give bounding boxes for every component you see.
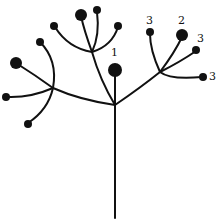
labels: 1 3 2 3 3: [111, 14, 216, 83]
upper-ray-d: [55, 27, 92, 52]
node-right-3a: [146, 28, 154, 36]
right-ray-3a: [150, 34, 160, 72]
upper-ray: [92, 52, 115, 105]
umbel-diagram: 1 3 2 3 3: [0, 0, 221, 223]
label-center: 1: [111, 46, 118, 59]
node-upper-b: [93, 6, 101, 14]
label-right-3c: 3: [209, 70, 216, 83]
label-right-3a: 3: [146, 14, 153, 27]
node-left-a: [10, 57, 22, 69]
node-right-2: [176, 29, 188, 41]
node-right-3b: [192, 46, 200, 54]
node-upper-a: [75, 9, 87, 21]
left-ray-a: [16, 63, 53, 88]
node-left-d: [24, 120, 32, 128]
node-center: [108, 63, 122, 77]
node-upper-c: [114, 22, 122, 30]
right-ray: [115, 72, 160, 105]
left-ray-c: [7, 88, 53, 97]
label-right-3b: 3: [197, 32, 204, 45]
node-upper-d: [50, 22, 58, 30]
upper-ray-b: [92, 12, 98, 52]
node-left-c: [2, 93, 10, 101]
upper-ray-a: [81, 16, 92, 52]
node-right-3c: [199, 73, 207, 81]
node-left-b: [36, 38, 44, 46]
left-ray: [53, 88, 115, 105]
right-ray-3c: [160, 72, 202, 78]
right-ray-3b: [160, 51, 196, 72]
flower-nodes: [2, 6, 207, 128]
label-right-2: 2: [178, 14, 185, 27]
